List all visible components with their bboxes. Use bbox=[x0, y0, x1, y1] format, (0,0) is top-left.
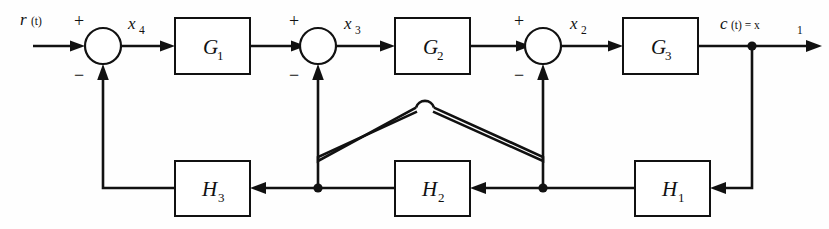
signal-x4-base: x bbox=[127, 14, 136, 33]
block-h2-subscript: 2 bbox=[438, 190, 445, 205]
block-h2: H 2 bbox=[395, 161, 470, 216]
output-signal-base: c bbox=[720, 14, 728, 33]
summing-junction-sum1: + − bbox=[74, 11, 121, 85]
block-h3-subscript: 3 bbox=[218, 190, 225, 205]
signal-label-output: c (t) = x 1 bbox=[720, 14, 803, 36]
block-g2-label: G bbox=[423, 35, 438, 59]
wire-h3-to-sum1 bbox=[97, 64, 175, 188]
block-g3: G 3 bbox=[623, 18, 698, 74]
input-signal-base: r bbox=[20, 10, 27, 29]
block-h1-label: H bbox=[661, 177, 679, 201]
input-signal-arg: (t) bbox=[31, 15, 42, 28]
wire-g2-to-sum3 bbox=[470, 41, 531, 52]
block-h1: H 1 bbox=[635, 161, 710, 216]
block-g3-label: G bbox=[651, 35, 666, 59]
sum1-minus-sign: − bbox=[74, 65, 84, 85]
signal-label-input: r (t) bbox=[20, 10, 42, 29]
wire-sum1-to-g1 bbox=[121, 41, 175, 52]
block-h3: H 3 bbox=[175, 161, 250, 216]
block-h2-label: H bbox=[421, 177, 439, 201]
block-h1-subscript: 1 bbox=[678, 190, 685, 205]
block-diagram-canvas: + − + − + − G 1 G 2 G 3 bbox=[0, 0, 829, 229]
block-h3-label: H bbox=[201, 177, 219, 201]
block-g3-subscript: 3 bbox=[665, 48, 672, 63]
signal-label-x2: x 2 bbox=[569, 14, 587, 36]
block-g2-subscript: 2 bbox=[437, 48, 444, 63]
signal-x3-base: x bbox=[343, 14, 352, 33]
wire-input-to-sum1 bbox=[33, 41, 85, 52]
wire-sum2-to-g2 bbox=[336, 41, 395, 52]
wire-sum3-to-g3 bbox=[561, 41, 623, 52]
sum3-minus-sign: − bbox=[514, 65, 524, 85]
output-signal-arg: (t) = x bbox=[731, 19, 760, 32]
output-signal-subscript: 1 bbox=[797, 24, 803, 36]
wire-g1-to-sum2 bbox=[250, 41, 306, 52]
junction-dot-output-tap bbox=[747, 41, 756, 50]
block-diagram-svg: + − + − + − G 1 G 2 G 3 bbox=[0, 0, 829, 229]
signal-label-x3: x 3 bbox=[343, 14, 361, 36]
sum2-minus-sign: − bbox=[289, 65, 299, 85]
wire-tap318-to-h3 bbox=[250, 182, 318, 194]
block-g1: G 1 bbox=[175, 18, 250, 74]
junction-dot-h2-input-tap bbox=[538, 183, 547, 192]
block-g2: G 2 bbox=[395, 18, 470, 74]
signal-label-x4: x 4 bbox=[127, 14, 145, 36]
signal-x2-subscript: 2 bbox=[581, 24, 587, 36]
sum1-plus-sign: + bbox=[74, 11, 84, 31]
block-g1-subscript: 1 bbox=[217, 48, 224, 63]
junction-dot-h3-input-tap bbox=[313, 183, 322, 192]
sum2-plus-sign: + bbox=[289, 11, 299, 31]
block-g1-label: G bbox=[203, 35, 218, 59]
signal-x4-subscript: 4 bbox=[139, 24, 145, 36]
signal-x3-subscript: 3 bbox=[355, 24, 361, 36]
wire-output-tap-down-to-h1 bbox=[710, 46, 752, 194]
signal-x2-base: x bbox=[569, 14, 578, 33]
sum3-plus-sign: + bbox=[514, 11, 524, 31]
wire-tap543-to-h2 bbox=[470, 182, 543, 194]
wire-g3-to-output bbox=[698, 40, 822, 52]
